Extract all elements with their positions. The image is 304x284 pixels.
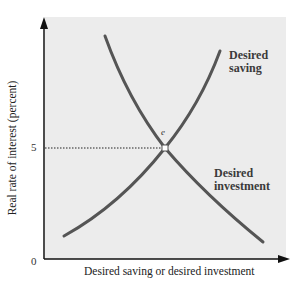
x-axis-title: Desired saving or desired investment <box>84 265 255 277</box>
y-tick-0: 0 <box>31 255 37 267</box>
chart-area: Desired saving Desired investment e 5 0 … <box>0 0 304 284</box>
chart-svg <box>0 0 304 284</box>
saving-curve-label: Desired saving <box>229 49 268 75</box>
y-axis-title: Real rate of interest (percent) <box>6 81 18 216</box>
equilibrium-marker <box>162 145 168 151</box>
investment-label-line2: investment <box>214 180 270 193</box>
y-tick-5: 5 <box>31 141 37 153</box>
investment-curve-label: Desired investment <box>214 167 270 193</box>
saving-label-line2: saving <box>229 62 268 75</box>
equilibrium-label: e <box>161 127 165 137</box>
